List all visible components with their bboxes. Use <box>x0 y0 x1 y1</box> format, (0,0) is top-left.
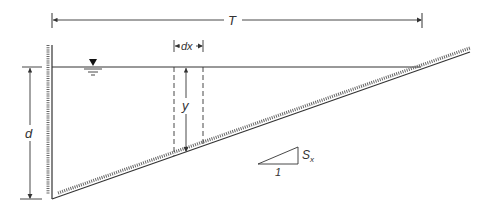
curb-wall <box>48 45 52 199</box>
depth-label: d <box>25 126 33 141</box>
depth-dimension: d <box>20 67 42 199</box>
differential-strip: dx <box>174 40 203 156</box>
slope-run-label: 1 <box>275 166 281 178</box>
gutter-diagram: T d dx y <box>0 0 485 211</box>
strip-width-label: dx <box>181 40 193 52</box>
top-width-label: T <box>228 13 237 28</box>
slope-rise-label: Sx <box>302 148 315 164</box>
slope-indicator: 1 Sx <box>258 147 315 178</box>
local-depth-dimension: y <box>181 68 190 151</box>
local-depth-label: y <box>181 98 190 113</box>
sloped-gutter-bottom <box>52 48 470 199</box>
top-width-dimension: T <box>52 13 422 28</box>
